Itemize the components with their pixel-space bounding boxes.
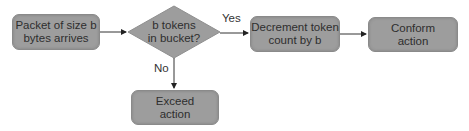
decision-line1: b tokens xyxy=(134,19,214,32)
decrement-node-line1: Decrement token xyxy=(251,21,339,34)
conform-node-line1: Conform xyxy=(391,22,435,35)
start-node-line2: bytes arrives xyxy=(15,32,96,45)
conform-node: Conform action xyxy=(368,17,458,52)
no-label: No xyxy=(154,62,169,74)
decision-label: b tokens in bucket? xyxy=(134,19,214,45)
yes-label: Yes xyxy=(222,12,241,24)
decrement-node: Decrement token count by b xyxy=(250,16,340,52)
decrement-node-line2: count by b xyxy=(251,34,339,47)
exceed-node: Exceed action xyxy=(131,90,219,125)
exceed-node-line2: action xyxy=(156,108,194,121)
start-node: Packet of size b bytes arrives xyxy=(12,14,100,50)
decision-line2: in bucket? xyxy=(134,32,214,45)
conform-node-line2: action xyxy=(391,35,435,48)
exceed-node-line1: Exceed xyxy=(156,95,194,108)
start-node-line1: Packet of size b xyxy=(15,19,96,32)
